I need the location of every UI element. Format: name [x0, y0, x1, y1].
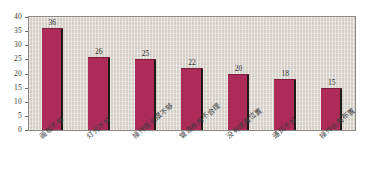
bar-value-label: 36	[49, 19, 57, 27]
bar-value-label: 26	[95, 48, 103, 56]
y-axis-tick-label: 10	[14, 98, 22, 106]
bar-value-label: 20	[235, 65, 243, 73]
x-axis: 画板不够灯光不好操作面长度不够管道布局不合理没有储藏位置通风不好操作台面布置	[28, 133, 356, 193]
y-axis-tick-label: 30	[14, 42, 22, 50]
y-axis-tick-label: 35	[14, 27, 22, 35]
y-axis-tick-label: 5	[18, 112, 22, 120]
bar-top-edge	[88, 57, 109, 58]
bar-top-edge	[181, 68, 202, 69]
bar-slot	[88, 17, 109, 130]
bar-value-label: 18	[281, 70, 289, 78]
y-axis: 0510152025303540	[0, 16, 25, 131]
y-axis-tick-label: 40	[14, 13, 22, 21]
y-axis-tick-label: 20	[14, 70, 22, 78]
bar-value-label: 25	[142, 50, 150, 58]
bar-value-label: 15	[328, 79, 336, 87]
bar-slot	[42, 17, 63, 130]
plot-area: 36262522201815	[28, 16, 356, 131]
bar-slot	[135, 17, 156, 130]
y-axis-tick-label: 0	[18, 126, 22, 134]
bar-top-edge	[135, 59, 156, 60]
bar-slot	[181, 17, 202, 130]
bar-slot	[228, 17, 249, 130]
bar-top-edge	[321, 88, 342, 89]
bar-top-edge	[274, 79, 295, 80]
bar-top-edge	[42, 28, 63, 29]
y-axis-tick-label: 25	[14, 56, 22, 64]
bar-value-label: 22	[188, 59, 196, 67]
bar-slot	[321, 17, 342, 130]
y-axis-tick-label: 15	[14, 84, 22, 92]
bar-top-edge	[228, 74, 249, 75]
bar-chart: 0510152025303540 36262522201815 画板不够灯光不好…	[0, 0, 368, 194]
